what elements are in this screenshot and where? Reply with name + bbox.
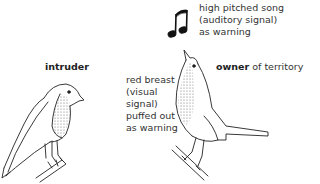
song-label: high pitched song (auditory signal) as w… [199, 2, 284, 38]
song-label-line: high pitched song [199, 2, 284, 14]
song-label-line: (auditory signal) [199, 14, 284, 26]
music-note-icon [167, 10, 188, 38]
breast-label-line: red breast [126, 74, 178, 86]
owner-label-rest: of territory [249, 61, 303, 72]
breast-label-line: as warning [126, 122, 178, 134]
breast-label-line: puffed out [126, 110, 178, 122]
song-label-line: as warning [199, 26, 284, 38]
intruder-label: intruder [45, 61, 89, 73]
owner-label: owner of territory [216, 61, 303, 73]
breast-label-line: signal) [126, 98, 178, 110]
intruder-bird [2, 84, 84, 182]
owner-label-bold: owner [216, 61, 249, 72]
breast-label-line: (visual [126, 86, 178, 98]
breast-label: red breast (visual signal) puffed out as… [126, 74, 178, 134]
